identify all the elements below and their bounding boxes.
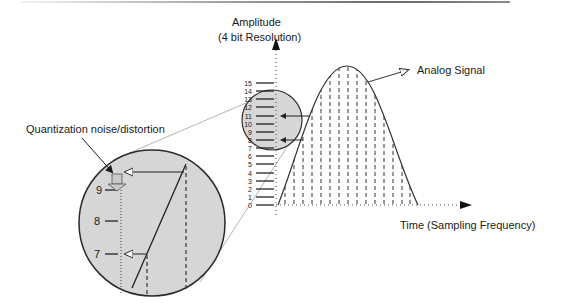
y-tick-6: 6 [248,153,252,160]
signal-pointer-arrow [368,70,408,82]
y-tick-2: 2 [248,186,252,193]
y-tick-1: 1 [248,194,252,201]
analog-signal-label: Analog Signal [417,64,485,76]
analog-signal-curve [278,66,418,205]
y-tick-11: 11 [245,113,252,120]
y-tick-14: 14 [244,88,252,95]
y-tick-12: 12 [244,104,252,111]
y-tick-9: 9 [248,129,252,136]
y-tick-13: 13 [244,96,252,103]
y-tick-labels: 0 1 2 3 4 5 6 7 8 9 10 11 12 13 14 15 [244,80,252,209]
y-axis-subtitle: (4 bit Resolution) [218,31,301,43]
magnified-tick-8: 8 [94,215,100,227]
y-tick-3: 3 [248,178,252,185]
y-tick-8: 8 [248,137,252,144]
x-axis [276,201,472,209]
x-axis-title: Time (Sampling Frequency) [400,219,535,231]
y-axis-title: Amplitude [232,16,281,28]
y-tick-7: 7 [248,145,252,152]
y-tick-0: 0 [248,202,252,209]
y-tick-15: 15 [244,80,252,87]
y-tick-5: 5 [248,161,252,168]
magnified-tick-7: 7 [94,248,100,260]
y-tick-4: 4 [248,170,252,177]
magnifier-large: 9 8 7 [79,150,225,296]
magnified-tick-9: 9 [96,184,102,196]
callout-pointer-arrow [82,138,112,172]
x-axis-arrow-icon [460,201,472,209]
y-tick-10: 10 [244,121,252,128]
quantization-noise-label: Quantization noise/distortion [26,123,165,135]
quantization-diagram: 0 1 2 3 4 5 6 7 8 9 10 11 12 13 14 15 [0,0,568,305]
